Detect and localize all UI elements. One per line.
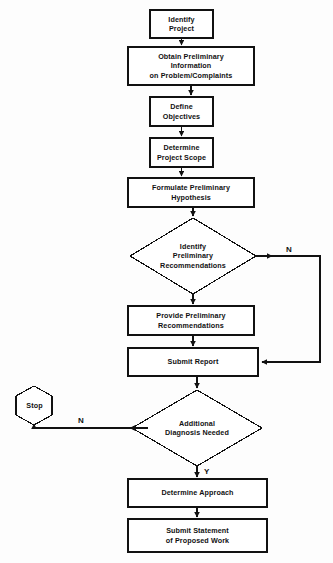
node-determine-project-scope[interactable] (150, 138, 213, 167)
node-identify-project[interactable] (150, 10, 213, 38)
node-obtain-preliminary-information[interactable] (128, 47, 254, 85)
edge-identify-recs-no-loop (256, 256, 320, 362)
node-stop[interactable] (13, 386, 56, 425)
edge-label-additional-diagnosis-no: N (78, 417, 84, 425)
node-submit-report[interactable] (128, 348, 258, 376)
edge-label-additional-diagnosis-yes: Y (204, 468, 209, 476)
edge-label-identify-recs-no: N (286, 246, 292, 254)
node-define-objectives[interactable] (150, 97, 213, 126)
node-additional-diagnosis-needed[interactable] (132, 390, 262, 466)
node-formulate-preliminary-hypothesis[interactable] (128, 178, 254, 207)
flowchart-canvas: Identify Project Obtain Preliminary Info… (0, 0, 333, 563)
node-identify-preliminary-recommendations[interactable] (130, 218, 256, 294)
edge-additional-diagnosis-no-to-stop (34, 427, 132, 428)
node-provide-preliminary-recommendations[interactable] (128, 306, 254, 335)
node-determine-approach[interactable] (128, 479, 267, 507)
node-submit-statement-of-proposed-work[interactable] (128, 519, 267, 552)
